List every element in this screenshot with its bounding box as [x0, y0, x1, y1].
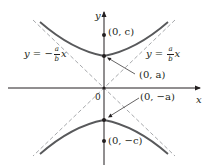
right-asymptote-var: x: [175, 48, 181, 59]
left-asymptote-lhs: y = −: [24, 48, 53, 59]
vertex-bottom-label-text: (0, −a): [140, 91, 175, 102]
right-asymptote-fraction: ab: [167, 46, 173, 63]
focus-top-label: (0, c): [108, 27, 134, 37]
vertex-bottom-leader: [110, 98, 139, 116]
vertex-bottom-label: (0, −a): [140, 92, 175, 102]
vertex-top-label-text: (0, a): [139, 69, 165, 80]
right-asymptote-numerator: a: [167, 46, 173, 55]
focus-bottom-label-text: (0, −c): [108, 135, 143, 146]
left-asymptote-denominator: b: [54, 55, 60, 63]
right-asymptote-denominator: b: [167, 55, 173, 63]
origin-label: 0: [95, 93, 101, 102]
left-asymptote-equation: y = −abx: [24, 46, 67, 63]
focus-bottom-point: [102, 139, 106, 143]
right-asymptote-equation: y = abx: [146, 46, 180, 63]
vertex-top-leader-arrow-icon: [107, 58, 112, 62]
vertex-top-label: (0, a): [139, 70, 165, 80]
origin-point: [102, 86, 105, 89]
vertex-top-point: [102, 54, 106, 58]
left-asymptote-numerator: a: [54, 46, 60, 55]
right-asymptote-lhs: y =: [146, 48, 166, 59]
focus-top-label-text: (0, c): [108, 26, 134, 37]
hyperbola-diagram: y x 0 (0, c) (0, a) (0, −a) (0, −c) y = …: [0, 0, 212, 168]
diagram-canvas: [0, 0, 212, 168]
left-asymptote-var: x: [61, 48, 67, 59]
focus-top-point: [102, 33, 106, 37]
vertex-bottom-leader-arrow-icon: [108, 114, 113, 118]
vertex-bottom-point: [102, 118, 106, 122]
focus-bottom-label: (0, −c): [108, 136, 143, 146]
x-axis-label: x: [196, 95, 202, 105]
y-axis-label: y: [95, 11, 101, 21]
left-asymptote-fraction: ab: [54, 46, 60, 63]
